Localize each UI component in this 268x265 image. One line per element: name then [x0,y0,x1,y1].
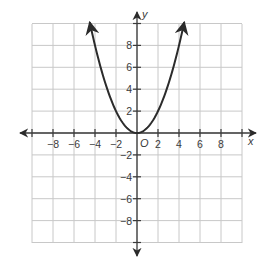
x-tick-label: −6 [68,138,80,150]
y-tick-label: −6 [120,193,132,205]
y-tick-label: 6 [126,61,132,73]
x-tick-label: −4 [89,138,101,150]
origin-label: O [140,137,149,149]
y-tick-label: −8 [120,215,132,227]
y-tick-label: 4 [126,83,132,95]
y-tick-label: 2 [126,105,132,117]
y-axis-label: y [141,8,149,20]
x-tick-label: 2 [155,138,161,150]
y-tick-label: −2 [120,149,132,161]
y-tick-label: 8 [126,39,132,51]
coordinate-plane: −8−6−4−22468 8642−2−4−6−8 x y O [0,0,268,265]
x-tick-label: 4 [176,138,182,150]
x-tick-label: 8 [218,138,224,150]
y-tick-label: −4 [120,171,132,183]
x-axis-label: x [247,135,254,147]
x-tick-label: −8 [47,138,59,150]
x-tick-labels: −8−6−4−22468 [47,138,224,150]
x-tick-label: 6 [197,138,203,150]
